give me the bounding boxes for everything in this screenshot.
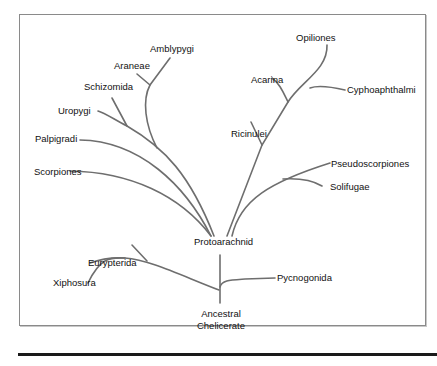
label-protoarachnid: Protoarachnid: [194, 236, 253, 247]
branch-pseudo-solifugae: [232, 163, 330, 236]
label-root-line2: Chelicerate: [197, 320, 245, 331]
label-schizomida: Schizomida: [84, 81, 134, 92]
phylogeny-svg: Amblypygi Araneae Schizomida Uropygi Pal…: [0, 0, 437, 366]
label-root-line1: Ancestral: [201, 308, 241, 319]
label-eurypterida: Eurypterida: [88, 257, 137, 268]
label-cyphoaphthalmi: Cyphoaphthalmi: [347, 84, 416, 95]
label-pycnogonida: Pycnogonida: [277, 272, 333, 283]
branch-cyphoaphthalmi: [310, 87, 345, 90]
branch-scorpiones: [70, 171, 211, 236]
label-palpigradi: Palpigradi: [35, 133, 77, 144]
label-acarina: Acarina: [251, 74, 284, 85]
label-uropygi: Uropygi: [58, 105, 91, 116]
label-solifugae: Solifugae: [330, 181, 370, 192]
label-xiphosura: Xiphosura: [53, 277, 96, 288]
label-araneae: Araneae: [114, 60, 150, 71]
label-ricinulei: Ricinulei: [231, 128, 267, 139]
label-amblypygi: Amblypygi: [150, 43, 194, 54]
label-scorpiones: Scorpiones: [34, 166, 82, 177]
branch-amblypygi-stem: [146, 58, 170, 148]
label-pseudoscorpiones: Pseudoscorpiones: [331, 158, 409, 169]
branch-solifugae: [283, 179, 322, 186]
label-opiliones: Opiliones: [296, 32, 336, 43]
branch-pycnogonida: [220, 278, 275, 287]
branch-araneae: [137, 74, 150, 85]
branch-left-main: [98, 111, 214, 236]
